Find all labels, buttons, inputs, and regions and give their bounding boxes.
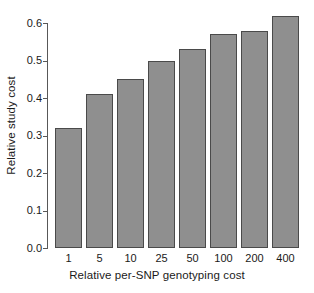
y-axis-tick-label: 0.1 (18, 205, 42, 216)
y-axis-tick-mark (43, 173, 48, 174)
bar[interactable] (241, 31, 268, 249)
bar[interactable] (148, 61, 175, 249)
x-axis-tick-label: 200 (241, 251, 268, 265)
x-axis-tick-label-group: 15102550100200400 (53, 251, 306, 267)
y-axis-tick-label: 0.6 (18, 18, 42, 29)
y-axis-tick-label: 0.4 (18, 93, 42, 104)
y-axis-tick-label: 0.0 (18, 243, 42, 254)
y-axis-tick-mark (43, 248, 48, 249)
y-axis-tick-mark (43, 136, 48, 137)
bar-chart-figure: Relative study cost 0.00.10.20.30.40.50.… (0, 0, 314, 293)
bar[interactable] (272, 16, 299, 249)
bar[interactable] (210, 34, 237, 248)
x-axis-title: Relative per-SNP genotyping cost (0, 269, 314, 281)
bar-slot (179, 10, 206, 248)
x-axis-tick-label: 400 (272, 251, 299, 265)
x-axis-tick-label: 10 (117, 251, 144, 265)
bar-slot (272, 10, 299, 248)
bar-slot (86, 10, 113, 248)
bar-slot (148, 10, 175, 248)
bar[interactable] (86, 94, 113, 248)
x-axis-tick-label: 25 (148, 251, 175, 265)
x-axis-tick-label: 5 (86, 251, 113, 265)
y-axis-tick-mark (43, 61, 48, 62)
y-axis-tick-mark (43, 211, 48, 212)
x-axis-tick-label: 100 (210, 251, 237, 265)
x-axis-tick-label: 50 (179, 251, 206, 265)
bar-slot (241, 10, 268, 248)
y-axis-tick-label: 0.3 (18, 130, 42, 141)
plot-area (53, 10, 306, 248)
bar[interactable] (179, 49, 206, 248)
bar-slot (55, 10, 82, 248)
y-axis-tick-label: 0.2 (18, 168, 42, 179)
bar[interactable] (55, 128, 82, 248)
y-axis-tick-label: 0.5 (18, 55, 42, 66)
y-axis-tick-label-group: 0.00.10.20.30.40.50.6 (18, 0, 42, 293)
bar[interactable] (117, 79, 144, 248)
y-axis-tick-mark (43, 23, 48, 24)
bar-slot (210, 10, 237, 248)
x-axis-tick-label: 1 (55, 251, 82, 265)
y-axis-tick-mark (43, 98, 48, 99)
bar-slot (117, 10, 144, 248)
